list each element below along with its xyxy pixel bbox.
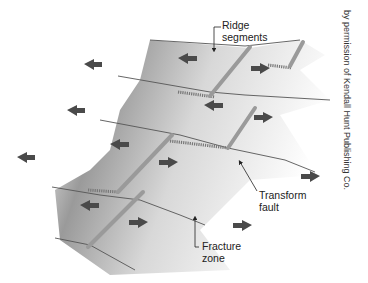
arrow-left-2 (67, 105, 85, 116)
ridge-label-line2: segments (222, 31, 268, 43)
ridge-segments-label: Ridge segments (222, 19, 268, 43)
ridge-illustration (0, 0, 368, 283)
transform-label-line1: Transform (259, 189, 306, 201)
fracture-label-line1: Fracture (202, 240, 241, 252)
transform-label-line2: fault (259, 201, 306, 213)
mid-ocean-ridge-diagram: Ridge segments Transform fault Fracture … (0, 0, 368, 283)
arrow-left-1 (84, 59, 102, 70)
arrow-left-3 (17, 152, 35, 163)
arrow-right-9 (233, 220, 252, 231)
credit-text: by permission of Kendall Hunt Publishing… (342, 10, 352, 190)
transform-fault-label: Transform fault (259, 189, 306, 213)
ridge-label-line1: Ridge (222, 19, 268, 31)
fracture-label-line2: zone (202, 252, 241, 264)
fracture-zone-label: Fracture zone (202, 240, 241, 264)
